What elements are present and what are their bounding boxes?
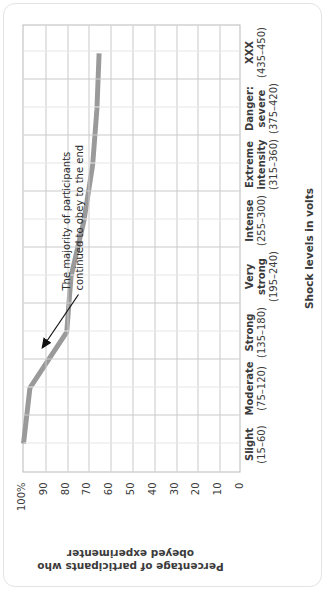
rotated-figure-wrapper: Percentage of participants who obeyed ex… — [3, 3, 322, 587]
annotation-arrow-icon — [3, 3, 322, 587]
line-chart-figure: Percentage of participants who obeyed ex… — [3, 3, 322, 587]
annotation-text: The majority of participants continued t… — [60, 140, 85, 290]
figure-card: Percentage of participants who obeyed ex… — [3, 3, 322, 587]
